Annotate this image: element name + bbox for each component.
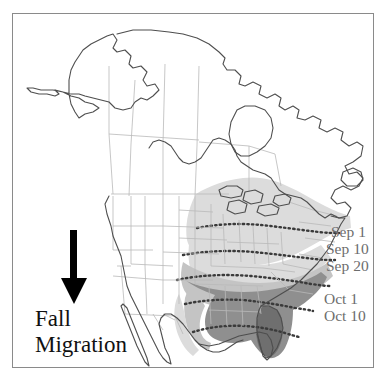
figure-caption: Fall Migration <box>35 306 127 358</box>
down-arrow-icon <box>57 230 91 306</box>
map-frame: Sep 1 Sep 10 Sep 20 Oct 1 Oct 10 Fall Mi… <box>12 13 374 368</box>
isochrone-label-sep-1: Sep 1 <box>331 224 366 240</box>
figure-container: Sep 1 Sep 10 Sep 20 Oct 1 Oct 10 Fall Mi… <box>0 0 388 386</box>
isochrone-label-sep-10: Sep 10 <box>326 241 369 257</box>
isochrone-label-oct-10: Oct 10 <box>324 308 366 324</box>
caption-line-1: Fall <box>35 306 127 332</box>
newfoundland-outline <box>341 168 363 186</box>
caption-line-2: Migration <box>35 332 127 358</box>
isochrone-label-oct-1: Oct 1 <box>324 291 358 307</box>
alaska-outline <box>27 34 159 118</box>
isochrone-label-sep-20: Sep 20 <box>326 258 369 274</box>
hudson-bay-outline <box>229 106 273 156</box>
